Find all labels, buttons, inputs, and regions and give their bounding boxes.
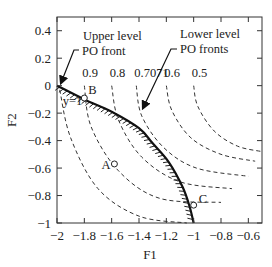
point-a [111,161,117,167]
x-tick-label: −1.6 [100,228,124,243]
lower-level-front-curve [166,86,255,162]
lower-front-label: 0.6 [164,66,180,80]
chart: y=10.90.80.70710.60.5 ABC −2−1.8−1.6−1.4… [0,0,272,267]
point-c [191,202,197,208]
y-tick-label: 0 [45,78,52,93]
lower-front-label: 0.8 [110,66,126,80]
upper-front-annotation-line2: PO front [82,44,126,58]
x-tick-label: −1.8 [73,228,97,243]
x-axis-label: F1 [143,247,157,262]
point-b [81,95,87,101]
y-axis-label: F2 [4,113,19,127]
lower-fronts-annotation-line2: PO fronts [180,42,228,56]
y-tick-label: −1 [37,216,51,231]
y-tick-label: −0.8 [27,188,51,203]
x-tick-label: −0.8 [209,228,233,243]
upper-front-annotation-line1: Upper level [83,29,142,43]
lower-front-label: 0.9 [82,66,98,80]
x-tick-label: −2 [50,228,64,243]
lower-front-label: 0.5 [192,66,208,80]
y-tick-label: −0.2 [27,106,51,121]
y-tick-label: −0.6 [27,161,51,176]
upper-front-arrow [61,50,79,83]
y-tick-label: 0.2 [35,51,51,66]
y-tick-label: −0.4 [27,133,51,148]
x-tick-label: −1.2 [155,228,179,243]
lower-level-front-curve [136,86,248,177]
point-label: A [101,158,110,172]
y-tick-label: 0.4 [35,23,52,38]
point-label: B [88,83,96,97]
x-tick-label: −1.4 [127,228,151,243]
lower-fronts-annotation-line1: Lower level [180,27,241,41]
x-tick-label: −1 [187,228,201,243]
lower-level-front-curve [194,86,262,152]
point-label: C [199,192,207,206]
x-tick-label: −0.6 [237,228,261,243]
lower-level-front-curve [60,90,187,223]
